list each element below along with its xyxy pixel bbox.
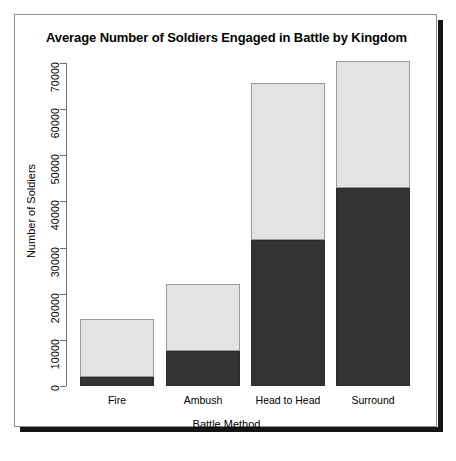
bar-segment-lower-segment [336,188,410,386]
bar-segment-lower-segment [166,351,240,386]
y-axis-tick-label: 60000 [49,108,61,138]
y-axis-tick-label: 40000 [49,200,61,230]
bar-surround [336,61,410,386]
top-cropped-text [0,0,456,3]
plot-area: 010000200003000040000500006000070000 Num… [15,15,438,428]
x-axis-tick-label: Surround [336,394,410,406]
y-axis-tick-label: 10000 [49,339,61,369]
x-axis-title: Battle Method [15,418,438,430]
y-axis-tick-label: 0 [49,385,61,391]
y-axis-line [66,63,67,386]
bar-segment-lower-segment [80,377,154,386]
bar-segment-upper-segment [251,83,325,240]
y-axis-tick-label: 70000 [49,62,61,92]
y-axis-title: Number of Soldiers [25,151,37,271]
bar-segment-upper-segment [336,61,410,188]
chart-frame: Average Number of Soldiers Engaged in Ba… [14,14,437,427]
x-axis-tick-label: Ambush [166,394,240,406]
x-axis-tick-label: Fire [80,394,154,406]
bar-segment-upper-segment [166,284,240,350]
bar-fire [80,319,154,386]
bar-head-to-head [251,83,325,386]
y-axis-tick-label: 20000 [49,293,61,323]
bar-segment-lower-segment [251,240,325,386]
y-axis-tick-label: 30000 [49,247,61,277]
frame-shadow-right [438,20,443,432]
y-axis-tick-label: 50000 [49,154,61,184]
bar-segment-upper-segment [80,319,154,377]
bar-ambush [166,284,240,386]
x-axis-tick-label: Head to Head [251,394,325,406]
